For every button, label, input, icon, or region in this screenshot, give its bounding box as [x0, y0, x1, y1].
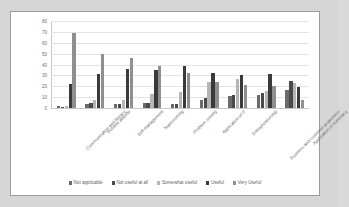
y-axis: 01020304050607080	[11, 17, 49, 108]
y-axis-tick-label: 0	[17, 106, 47, 111]
x-axis-tick-label: Self-management	[136, 109, 164, 137]
legend-swatch-icon	[206, 181, 209, 184]
x-axis-tick-label: Problem solving	[193, 109, 219, 135]
bar	[187, 73, 190, 108]
y-axis-tick-label: 50	[17, 51, 47, 56]
bar	[65, 106, 68, 108]
legend-swatch-icon	[112, 181, 115, 184]
bar	[150, 94, 153, 108]
bar	[146, 103, 149, 108]
chart-legend: Not applicableNot useful at allSomewhat …	[11, 180, 319, 186]
bar-group	[195, 21, 224, 108]
bar	[85, 104, 88, 108]
legend-item[interactable]: Not applicable	[69, 180, 103, 186]
bar	[265, 91, 268, 108]
bar	[204, 98, 207, 108]
x-axis-category-labels: Communication and literacyPositive attit…	[51, 109, 309, 179]
bar	[89, 103, 92, 108]
legend-label: Very Useful	[238, 180, 262, 186]
bar	[101, 54, 104, 108]
bar	[268, 74, 271, 108]
legend-item[interactable]: Useful	[206, 180, 224, 186]
bar	[200, 100, 203, 108]
bar	[69, 84, 72, 108]
plot-area	[51, 21, 309, 108]
legend-label: Not useful at all	[116, 180, 148, 186]
legend-swatch-icon	[69, 181, 72, 184]
bar	[289, 81, 292, 108]
bar	[236, 79, 239, 108]
bar	[72, 33, 75, 108]
bar-groups	[52, 21, 309, 108]
y-axis-tick-label: 20	[17, 84, 47, 89]
bar	[232, 95, 235, 108]
bar	[122, 100, 125, 108]
y-axis-tick-label: 70	[17, 29, 47, 34]
bar	[126, 69, 129, 108]
bar	[244, 85, 247, 108]
legend-label: Not applicable	[74, 180, 103, 186]
bar	[293, 83, 296, 108]
bar	[154, 70, 157, 108]
bar	[272, 86, 275, 108]
y-axis-tick-label: 80	[17, 19, 47, 24]
bar	[297, 87, 300, 108]
x-axis-tick-label: Teamworking	[162, 109, 184, 131]
y-axis-tick-label: 10	[17, 95, 47, 100]
bar-group	[223, 21, 252, 108]
bar-group	[109, 21, 138, 108]
y-axis-tick-label: 60	[17, 40, 47, 45]
legend-swatch-icon	[157, 181, 160, 184]
bar-group	[281, 21, 310, 108]
bar	[261, 93, 264, 108]
legend-item[interactable]: Not useful at all	[112, 180, 148, 186]
bar-group	[52, 21, 81, 108]
bar	[93, 100, 96, 108]
bar-group	[252, 21, 281, 108]
bar-group	[81, 21, 110, 108]
y-axis-tick-label: 40	[17, 62, 47, 67]
bar	[207, 82, 210, 108]
x-axis-tick-label: Entrepreneurship	[251, 109, 278, 136]
bar	[179, 92, 182, 108]
legend-label: Useful	[211, 180, 224, 186]
bar	[130, 58, 133, 108]
bar	[228, 96, 231, 108]
bar	[215, 82, 218, 108]
bar	[118, 104, 121, 108]
bar	[57, 106, 60, 108]
legend-item[interactable]: Very Useful	[233, 180, 261, 186]
bar	[61, 107, 64, 108]
bar-group	[138, 21, 167, 108]
y-axis-tick-label: 30	[17, 73, 47, 78]
bar-group	[166, 21, 195, 108]
bar	[158, 66, 161, 108]
bar	[114, 104, 117, 108]
bar	[257, 95, 260, 108]
x-axis-tick-label: Business and customer awareness	[289, 109, 341, 161]
bar	[301, 100, 304, 108]
chart-panel: 01020304050607080 Communication and lite…	[10, 11, 320, 196]
legend-swatch-icon	[233, 181, 236, 184]
bar	[143, 103, 146, 108]
bar	[240, 75, 243, 108]
bar	[285, 90, 288, 108]
bar	[183, 66, 186, 108]
legend-item[interactable]: Somewhat useful	[157, 180, 197, 186]
legend-label: Somewhat useful	[162, 180, 197, 186]
bar	[175, 104, 178, 108]
bar	[97, 74, 100, 108]
bar	[211, 73, 214, 108]
bar	[171, 104, 174, 108]
x-axis-tick-label: Application of IT	[221, 109, 247, 135]
